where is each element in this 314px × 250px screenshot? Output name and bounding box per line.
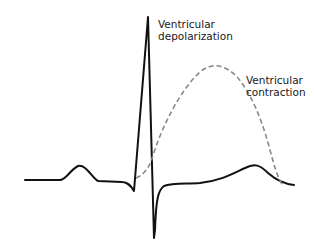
depolarization-label-line1: Ventricular [158,18,233,30]
contraction-label-line2: contraction [246,86,306,98]
contraction-label: Ventricular contraction [246,74,306,98]
ecg-trace [25,17,294,238]
ecg-figure [0,0,314,250]
ecg-diagram: Ventricular depolarization Ventricular c… [0,0,314,250]
depolarization-label-line2: depolarization [158,30,233,42]
contraction-label-line1: Ventricular [246,74,306,86]
depolarization-label: Ventricular depolarization [158,18,233,42]
